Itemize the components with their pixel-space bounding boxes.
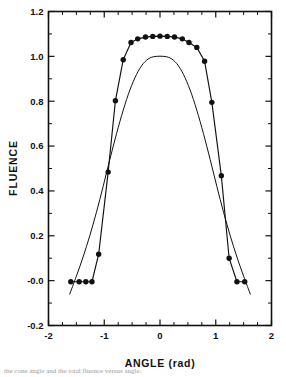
y-tick-label: 1.0 [30, 51, 43, 62]
figure-caption-fragment: the cone angle and the total fluence ver… [0, 365, 286, 377]
data-point-marker [96, 251, 101, 256]
x-tick-label: 0 [157, 330, 162, 341]
data-point-marker [105, 169, 110, 174]
data-point-marker [68, 279, 73, 284]
data-point-marker [180, 36, 185, 41]
data-point-marker [157, 33, 162, 38]
data-point-marker [165, 34, 170, 39]
y-tick-label: 1.2 [30, 6, 43, 17]
measured-fluence-path [71, 36, 245, 282]
minor-tick-marks [49, 12, 272, 326]
measured-fluence-markers [68, 33, 247, 284]
data-point-marker [242, 279, 247, 284]
data-point-marker [202, 59, 207, 64]
x-tick-label: -2 [44, 330, 52, 341]
y-axis-title: FLUENCE [7, 140, 19, 196]
data-point-marker [83, 279, 88, 284]
data-point-marker [226, 256, 231, 261]
y-tick-label: 0.2 [30, 230, 43, 241]
data-point-marker [143, 34, 148, 39]
data-point-marker [194, 45, 199, 50]
data-point-marker [121, 57, 126, 62]
x-tick-label: 1 [213, 330, 219, 341]
y-tick-label: 0.6 [30, 140, 43, 151]
y-tick-label: -0.0 [27, 275, 43, 286]
data-point-marker [76, 279, 81, 284]
y-tick-label: -0.2 [27, 320, 43, 331]
x-tick-label: 2 [269, 330, 274, 341]
data-point-marker [128, 40, 133, 45]
y-tick-label: 0.8 [30, 96, 43, 107]
data-point-marker [135, 36, 140, 41]
y-axis-tick-labels: -0.2-0.00.20.40.60.81.01.2 [27, 6, 44, 331]
data-point-marker [219, 173, 224, 178]
x-axis-tick-labels: -2-1012 [44, 330, 274, 341]
x-tick-label: -1 [100, 330, 109, 341]
fluence-angle-figure: -0.2-0.00.20.40.60.81.01.2 -2-1012 FLUEN… [0, 0, 286, 377]
y-tick-label: 0.4 [30, 185, 44, 196]
data-point-marker [209, 100, 214, 105]
measured-fluence-curve [71, 36, 245, 282]
data-point-marker [150, 34, 155, 39]
data-point-marker [234, 279, 239, 284]
data-point-marker [186, 40, 191, 45]
major-tick-marks [49, 12, 272, 326]
data-point-marker [113, 98, 118, 103]
axes-frame [49, 12, 272, 326]
fluence-angle-chart: -0.2-0.00.20.40.60.81.01.2 -2-1012 FLUEN… [0, 0, 286, 377]
data-point-marker [172, 34, 177, 39]
data-point-marker [89, 279, 94, 284]
